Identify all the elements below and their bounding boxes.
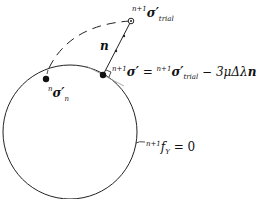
arrow-mark-icon [115,50,117,52]
yield-sub: Y [165,148,170,156]
trial-stress-label: n+1σ′trial [132,4,174,23]
rhs-sym: σ′ [171,65,183,79]
trial-stress-sym: σ′ [147,6,159,20]
updated-stress-point [100,72,106,78]
previous-stress-label: nσ′n [48,84,69,103]
diagram-canvas [0,0,277,199]
yield-eq: = 0 [174,140,196,154]
yield-surface-label: n+1fY = 0 [146,141,195,156]
arrow-mark-icon [123,35,125,37]
normal-vector-label: n [100,37,109,53]
trial-stress-sub: trial [159,15,174,23]
previous-stress-sub: n [65,95,70,103]
yield-surface-circle [3,65,137,199]
previous-stress-tick [47,70,48,74]
trial-stress-sup: n+1 [132,5,147,13]
lhs-sym: σ′ [127,65,139,79]
dashed-trial-path [49,21,130,68]
minus-sign: − [202,65,212,79]
yield-sup: n+1 [146,140,161,148]
normal-vector-sym: n [100,39,109,53]
previous-stress-point [43,76,49,82]
yield-label-leader [136,142,145,143]
updated-stress-equation: n+1σ′ = n+1σ′trial − 3μΔλn [112,66,256,81]
lhs-sup: n+1 [112,65,127,73]
previous-stress-sym: σ′ [53,86,65,100]
coefficient: 3μΔλ [216,65,248,79]
rhs-sup: n+1 [157,65,172,73]
normal-vec: n [248,65,257,79]
rhs-sub: trial [183,73,198,81]
equals-sign: = [143,65,153,79]
